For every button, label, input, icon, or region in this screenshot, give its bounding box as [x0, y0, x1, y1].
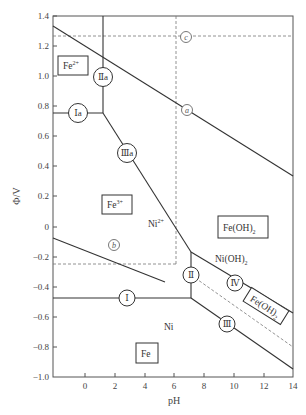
label-IIa: Ⅱa	[98, 72, 108, 82]
boundary-lines	[53, 16, 293, 369]
label-II: Ⅱ	[188, 270, 194, 280]
y-tick-label: 0.2	[38, 191, 49, 201]
y-tick-label: 0.4	[38, 161, 50, 171]
y-tick-label: −0.4	[33, 282, 50, 292]
label-a: a	[185, 106, 189, 115]
label-c: c	[184, 33, 188, 42]
label-b: b	[112, 241, 116, 250]
circled-labels	[69, 68, 244, 333]
pourbaix-diagram: 1.4 1.2 1.0 0.8 0.6 0.4 0.2 0 −0.2 −0.4 …	[0, 0, 306, 415]
y-axis-tick-labels: 1.4 1.2 1.0 0.8 0.6 0.4 0.2 0 −0.2 −0.4 …	[33, 11, 50, 382]
region-ni: Ni	[164, 322, 174, 332]
label-IIIa: Ⅲa	[121, 148, 134, 158]
label-IV: Ⅳ	[231, 278, 241, 288]
y-tick-label: 1.2	[38, 41, 49, 51]
label-Ia: Ⅰa	[74, 108, 82, 118]
line-a	[53, 26, 293, 176]
y-tick-label: 1.0	[38, 71, 50, 81]
label-III: Ⅲ	[223, 319, 232, 329]
y-tick-label: −0.2	[33, 252, 49, 262]
x-axis-tick-labels: 0 2 4 6 8 10 12 14	[83, 381, 298, 391]
y-tick-label: 0	[45, 222, 50, 232]
region-boxes	[58, 56, 289, 363]
x-axis-ticks	[85, 373, 264, 377]
y-axis-ticks	[53, 16, 57, 347]
x-tick-label: 12	[260, 381, 269, 391]
boundary-IIIa	[103, 113, 191, 252]
region-fe: Fe	[141, 349, 151, 359]
y-tick-label: 1.4	[38, 11, 50, 21]
y-tick-label: 0.6	[38, 131, 50, 141]
y-axis-label: Φ/V	[11, 187, 22, 205]
x-tick-label: 10	[230, 381, 240, 391]
x-tick-label: 0	[83, 381, 88, 391]
y-tick-label: −0.6	[33, 312, 50, 322]
y-tick-label: 0.8	[38, 101, 50, 111]
y-tick-label: −0.8	[33, 342, 50, 352]
x-tick-label: 6	[172, 381, 177, 391]
x-tick-label: 14	[289, 381, 299, 391]
region-nioh2: Ni(OH)2	[215, 254, 248, 266]
y-tick-label: −1.0	[33, 372, 50, 382]
region-ni2: Ni2+	[148, 218, 165, 229]
x-tick-label: 8	[202, 381, 207, 391]
x-axis-label: pH	[168, 395, 180, 406]
x-tick-label: 2	[113, 381, 118, 391]
x-tick-label: 4	[143, 381, 148, 391]
label-I: Ⅰ	[125, 293, 129, 303]
